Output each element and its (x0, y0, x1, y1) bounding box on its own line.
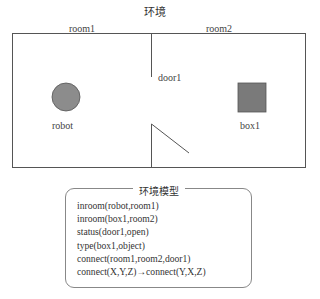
box1-label: box1 (240, 120, 260, 131)
model-fact: type(box1,object) (77, 239, 206, 252)
robot-circle-icon (52, 83, 80, 111)
door-open-icon (152, 124, 190, 153)
model-fact: connect(X,Y,Z)→connect(Y,X,Z) (77, 265, 206, 278)
model-fact: connect(room1,room2,door1) (77, 252, 206, 265)
environment-model-title: 环境模型 (65, 181, 252, 199)
box1-square-icon (238, 83, 266, 112)
door1-label: door1 (158, 72, 181, 83)
model-fact: inroom(robot,room1) (77, 199, 206, 212)
model-fact: inroom(box1,room2) (77, 212, 206, 225)
model-facts-list: inroom(robot,room1) inroom(box1,room2) s… (77, 199, 206, 278)
model-fact: status(door1,open) (77, 225, 206, 238)
robot-label: robot (52, 120, 73, 131)
model-title-text: 环境模型 (133, 186, 185, 197)
